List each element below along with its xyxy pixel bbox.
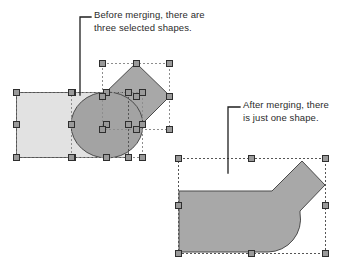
- handle-circle-w[interactable]: [69, 122, 75, 128]
- handle-merged-w[interactable]: [176, 203, 182, 209]
- handle-rect-ne[interactable]: [126, 90, 132, 96]
- handle-merged-nw[interactable]: [176, 156, 182, 162]
- handle-circle-sw[interactable]: [69, 155, 75, 161]
- shape-merged[interactable]: [179, 161, 325, 252]
- handle-diamond-nw[interactable]: [100, 61, 106, 67]
- handle-diamond-w[interactable]: [100, 94, 106, 100]
- handle-circle-s[interactable]: [104, 155, 110, 161]
- handle-rect-w[interactable]: [14, 122, 20, 128]
- handle-diamond-n[interactable]: [134, 61, 140, 67]
- handle-merged-ne[interactable]: [323, 156, 329, 162]
- handle-rect-sw[interactable]: [14, 155, 20, 161]
- handle-diamond-e[interactable]: [167, 94, 173, 100]
- handle-circle-nw[interactable]: [69, 90, 75, 96]
- handle-diamond-ne[interactable]: [167, 61, 173, 67]
- handle-merged-s[interactable]: [249, 251, 255, 257]
- shape-merging-figure: Before merging, there are three selected…: [0, 0, 356, 271]
- handle-merged-se[interactable]: [323, 251, 329, 257]
- handle-rect-nw[interactable]: [14, 90, 20, 96]
- handle-diamond-s[interactable]: [134, 127, 140, 133]
- caption-after-merging: After merging, there is just one shape.: [243, 99, 355, 124]
- handle-circle-se[interactable]: [140, 155, 146, 161]
- leader-line-after: [228, 107, 240, 173]
- before-merging-canvas: [0, 0, 356, 271]
- handle-circle-ne[interactable]: [140, 90, 146, 96]
- leader-line-before: [80, 17, 91, 95]
- caption-before-merging: Before merging, there are three selected…: [94, 9, 244, 34]
- handle-merged-e[interactable]: [323, 203, 329, 209]
- handle-diamond-center[interactable]: [134, 94, 140, 100]
- handle-diamond-se[interactable]: [167, 127, 173, 133]
- handle-rect-se[interactable]: [126, 155, 132, 161]
- handle-circle-e[interactable]: [140, 122, 146, 128]
- handle-merged-sw[interactable]: [176, 251, 182, 257]
- handle-diamond-sw[interactable]: [100, 127, 106, 133]
- handle-merged-n[interactable]: [249, 156, 255, 162]
- handle-rect-e[interactable]: [126, 122, 132, 128]
